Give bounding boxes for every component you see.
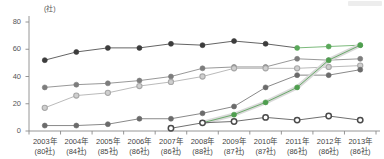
data-point [263, 115, 268, 120]
x-tick-count: (86社) [343, 147, 377, 157]
x-tick-year: 2006年 [122, 137, 156, 147]
data-point [232, 112, 237, 117]
data-point [42, 123, 47, 128]
data-point [326, 113, 331, 118]
x-tick-label: 2007年(86社) [154, 137, 188, 157]
y-tick-label: 40 [3, 72, 21, 81]
data-point [326, 44, 331, 49]
data-point [231, 119, 236, 124]
x-tick-label: 2013年(86社) [343, 137, 377, 157]
x-tick-count: (85社) [91, 147, 125, 157]
data-point [295, 56, 300, 61]
y-tick-label: 80 [3, 17, 21, 26]
y-tick-label: 60 [3, 44, 21, 53]
data-point [42, 58, 47, 63]
x-tick-year: 2009年 [217, 137, 251, 147]
line-chart-plot [0, 0, 384, 159]
x-tick-count: (87社) [217, 147, 251, 157]
data-point [105, 81, 110, 86]
x-tick-label: 2009年(87社) [217, 137, 251, 157]
data-point [263, 100, 268, 105]
x-tick-count: (86社) [154, 147, 188, 157]
x-tick-year: 2012年 [312, 137, 346, 147]
x-tick-year: 2013年 [343, 137, 377, 147]
chart-root: (社) 020406080 2003年(80社)2004年(84社)2005年(… [0, 0, 384, 159]
x-tick-year: 2007年 [154, 137, 188, 147]
data-point [74, 49, 79, 54]
data-point [200, 66, 205, 71]
x-tick-year: 2011年 [280, 137, 314, 147]
data-point [358, 56, 363, 61]
data-point [263, 66, 268, 71]
data-point [105, 90, 110, 95]
data-point [358, 117, 363, 122]
data-point [232, 104, 237, 109]
data-point [168, 74, 173, 79]
data-point [168, 41, 173, 46]
data-point [231, 66, 236, 71]
y-tick-label: 20 [3, 99, 21, 108]
x-tick-count: (87社) [249, 147, 283, 157]
data-point [295, 73, 300, 78]
series-series-1-top [42, 39, 362, 63]
data-point [295, 45, 300, 50]
data-point [295, 66, 300, 71]
x-tick-year: 2003年 [28, 137, 62, 147]
data-point [42, 85, 47, 90]
x-tick-label: 2006年(86社) [122, 137, 156, 157]
data-point [105, 45, 110, 50]
data-point [137, 116, 142, 121]
data-point [200, 120, 205, 125]
data-point [326, 64, 331, 69]
x-tick-year: 2008年 [186, 137, 220, 147]
x-tick-count: (86社) [280, 147, 314, 157]
x-tick-label: 2011年(86社) [280, 137, 314, 157]
data-point [263, 85, 268, 90]
data-point [295, 85, 300, 90]
data-point [74, 82, 79, 87]
x-tick-count: (84社) [59, 147, 93, 157]
data-point [168, 126, 173, 131]
x-tick-count: (86社) [122, 147, 156, 157]
x-tick-label: 2004年(84社) [59, 137, 93, 157]
x-tick-year: 2010年 [249, 137, 283, 147]
data-point [137, 78, 142, 83]
data-point [263, 41, 268, 46]
data-point [168, 79, 173, 84]
data-point [137, 83, 142, 88]
data-point [42, 105, 47, 110]
data-point [105, 122, 110, 127]
x-tick-label: 2012年(86社) [312, 137, 346, 157]
x-tick-count: (86社) [312, 147, 346, 157]
series-series-6-bottom [168, 113, 363, 131]
data-point [294, 117, 299, 122]
x-tick-label: 2008年(88社) [186, 137, 220, 157]
data-point [168, 116, 173, 121]
y-tick-label: 0 [3, 126, 21, 135]
data-point [74, 123, 79, 128]
data-point [326, 73, 331, 78]
data-point [200, 111, 205, 116]
x-tick-label: 2005年(85社) [91, 137, 125, 157]
data-point [232, 39, 237, 44]
data-point [137, 45, 142, 50]
data-point [200, 74, 205, 79]
x-tick-year: 2005年 [91, 137, 125, 147]
data-point [358, 67, 363, 72]
x-tick-label: 2003年(80社) [28, 137, 62, 157]
data-point [74, 93, 79, 98]
data-point [200, 43, 205, 48]
x-tick-count: (88社) [186, 147, 220, 157]
data-point [358, 43, 363, 48]
x-tick-count: (80社) [28, 147, 62, 157]
x-tick-label: 2010年(87社) [249, 137, 283, 157]
data-point [326, 58, 331, 63]
x-tick-year: 2004年 [59, 137, 93, 147]
